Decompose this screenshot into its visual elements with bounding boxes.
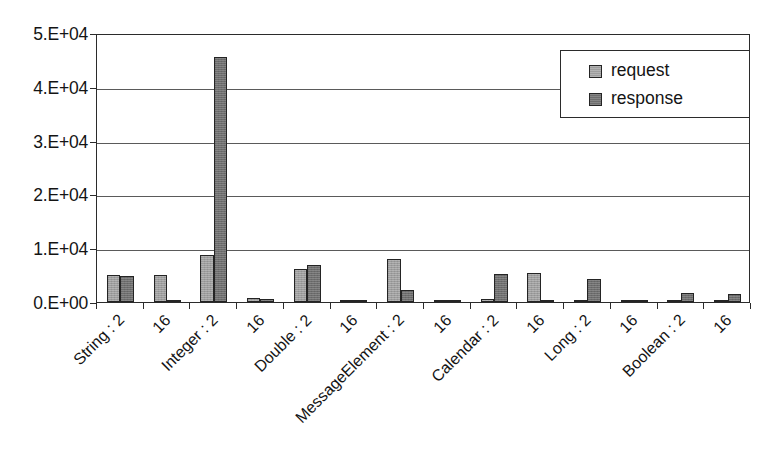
legend-label-response: response [611,90,683,108]
bar-group [377,35,424,302]
x-tick-label: 16 [523,311,548,336]
chart-legend: request response [560,50,750,118]
bar-request [667,300,681,302]
bar-request [621,300,635,302]
bar-response [354,300,368,302]
bar-request [294,269,308,302]
bar-request [247,298,261,302]
bar-group [144,35,191,302]
bar-chart: 5.E+044.E+043.E+042.E+041.E+040.E+00 Str… [0,0,779,467]
legend-entry-request: request [589,58,749,84]
bar-group [471,35,518,302]
bar-group [237,35,284,302]
bar-response [120,276,134,302]
bar-response [587,279,601,302]
legend-label-request: request [611,62,669,80]
bar-request [154,275,168,302]
legend-swatch-response-icon [589,93,602,106]
bar-request [481,299,495,302]
bar-request [200,255,214,302]
bar-request [387,259,401,302]
x-tick-label: String : 2 [70,311,128,369]
bar-group [284,35,331,302]
bar-response [307,265,321,302]
bar-response [681,293,695,302]
bar-response [214,57,228,302]
bar-response [447,300,461,302]
x-tick-label: 16 [430,311,455,336]
bar-request [714,300,728,302]
x-tick-label: 16 [336,311,361,336]
bar-response [401,290,415,302]
x-axis-labels: String : 216Integer : 216Double : 216Mes… [0,303,779,467]
bar-response [494,274,508,302]
bar-response [541,300,555,302]
x-tick-label: 16 [616,311,641,336]
bar-request [527,273,541,302]
bar-response [634,300,648,302]
x-tick-label: Long : 2 [541,311,595,365]
bar-group [97,35,144,302]
bar-request [574,300,588,302]
x-tick-label: 16 [243,311,268,336]
bar-group [190,35,237,302]
bar-request [107,275,121,302]
legend-swatch-request-icon [589,65,602,78]
y-axis-ticks [0,34,96,303]
bar-group [424,35,471,302]
bar-response [260,299,274,302]
x-tick-label: 16 [710,311,735,336]
bar-response [167,300,181,302]
bar-response [728,294,742,302]
x-tick-label: 16 [149,311,174,336]
bar-group [517,35,564,302]
bar-group [331,35,378,302]
legend-entry-response: response [589,86,749,112]
bar-request [434,300,448,302]
bar-request [340,300,354,302]
